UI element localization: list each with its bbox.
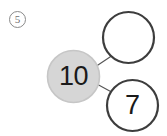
part-circle-bottom-value: 7	[106, 79, 159, 132]
whole-circle-value: 10	[47, 50, 100, 103]
number-bond-worksheet-item: 5 10 7	[0, 0, 167, 136]
part-circle-top-value	[102, 11, 155, 64]
